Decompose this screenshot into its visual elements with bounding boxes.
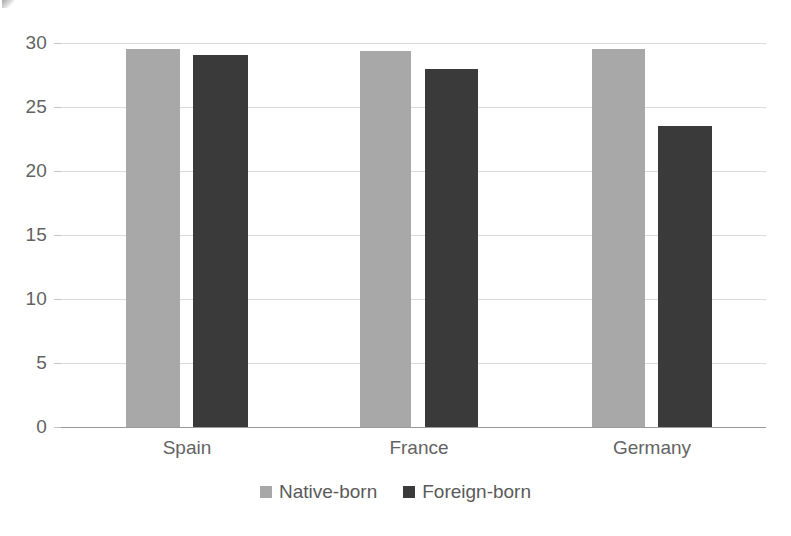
bar-france-foreign — [425, 69, 478, 427]
bar-spain-foreign — [193, 55, 248, 428]
y-tick-mark — [54, 107, 61, 108]
x-tick-label-spain: Spain — [163, 437, 212, 459]
legend-label: Native-born — [279, 481, 377, 503]
y-axis: 30 25 20 15 10 5 0 — [0, 0, 61, 536]
y-tick-mark — [54, 363, 61, 364]
x-tick-label-germany: Germany — [613, 437, 691, 459]
legend-item-foreign-born: Foreign-born — [403, 481, 531, 503]
bar-spain-native — [126, 49, 180, 427]
y-tick-label: 20 — [25, 160, 47, 182]
plot-area — [61, 43, 766, 427]
legend-item-native-born: Native-born — [260, 481, 377, 503]
y-tick-label: 15 — [25, 224, 47, 246]
x-tick-label-france: France — [389, 437, 448, 459]
y-tick-label: 0 — [36, 416, 47, 438]
gridline-30 — [61, 43, 766, 44]
chart-legend: Native-born Foreign-born — [0, 481, 791, 503]
y-tick-mark — [54, 43, 61, 44]
y-tick-mark — [54, 171, 61, 172]
legend-label: Foreign-born — [422, 481, 531, 503]
y-tick-label: 30 — [25, 32, 47, 54]
bar-germany-foreign — [658, 126, 712, 427]
bar-chart-figure: 30 25 20 15 10 5 0 Spain — [0, 0, 791, 536]
x-axis: Spain France Germany — [61, 437, 766, 467]
axis-baseline — [61, 427, 766, 428]
y-tick-label: 5 — [36, 352, 47, 374]
y-tick-label: 25 — [25, 96, 47, 118]
y-tick-mark — [54, 427, 61, 428]
legend-swatch-icon — [403, 486, 415, 498]
legend-swatch-icon — [260, 486, 272, 498]
bar-france-native — [360, 51, 411, 427]
bar-germany-native — [592, 49, 645, 427]
y-tick-mark — [54, 235, 61, 236]
y-tick-mark — [54, 299, 61, 300]
y-tick-label: 10 — [25, 288, 47, 310]
